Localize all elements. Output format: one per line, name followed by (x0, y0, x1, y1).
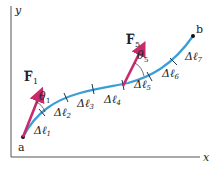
theta1-symbol: θ (39, 90, 46, 103)
segment-label-3: Δℓ3 (76, 97, 95, 111)
angle-arc-theta5 (135, 63, 144, 76)
theta1-subscript: 1 (46, 97, 50, 105)
force-f5-symbol: F (126, 33, 135, 47)
point-b-dot (191, 34, 195, 38)
segment-label-6: Δℓ6 (161, 67, 180, 81)
segment-label-2: Δℓ2 (53, 106, 72, 120)
segment-label-7: Δℓ7 (184, 50, 203, 64)
path-curve (23, 36, 193, 137)
force-f1-symbol: F (24, 70, 33, 84)
theta5-symbol: θ (137, 49, 144, 62)
segment-label-4: Δℓ4 (103, 93, 121, 107)
point-a-label: a (18, 141, 25, 154)
theta5-subscript: 5 (144, 56, 148, 64)
segment-label-5: Δℓ5 (133, 78, 152, 92)
x-axis-label: x (203, 151, 210, 164)
y-axis-label: y (14, 4, 22, 17)
segment-label-1: Δℓ1 (33, 124, 51, 138)
force-f5-subscript: 5 (135, 40, 140, 49)
point-b-label: b (196, 23, 203, 36)
work-along-path-diagram: y x a b F 1 θ 1 F 5 θ 5 Δℓ1 Δℓ2 Δℓ3 Δℓ4 … (0, 0, 215, 171)
force-f1-subscript: 1 (33, 77, 38, 86)
